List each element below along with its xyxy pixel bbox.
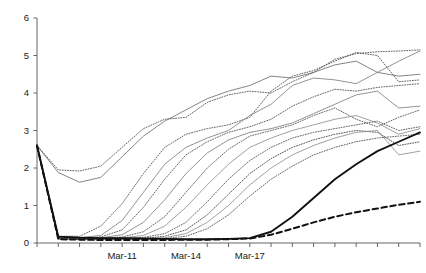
series-line <box>37 131 420 240</box>
series-line <box>37 108 420 239</box>
y-tick-label: 5 <box>13 51 29 61</box>
y-tick-label: 1 <box>13 201 29 211</box>
line-chart: 0123456 Mar-11Mar-14Mar-17 <box>0 0 426 273</box>
y-tick-label: 2 <box>13 163 29 173</box>
y-tick-label: 6 <box>13 13 29 23</box>
series-line <box>37 134 420 239</box>
series-line <box>37 131 420 240</box>
y-tick-label: 4 <box>13 88 29 98</box>
series-line <box>37 116 420 239</box>
x-tick-label: Mar-17 <box>220 251 280 261</box>
data-series-group <box>37 50 420 240</box>
series-line <box>37 51 420 237</box>
y-axis <box>34 18 38 243</box>
x-tick-label: Mar-14 <box>156 251 216 261</box>
series-line <box>37 121 420 239</box>
y-tick-label: 0 <box>13 238 29 248</box>
y-tick-label: 3 <box>13 126 29 136</box>
x-tick-label: Mar-11 <box>92 251 152 261</box>
chart-plot-area <box>0 0 426 273</box>
series-line <box>37 50 420 171</box>
x-axis <box>37 243 420 247</box>
series-line <box>37 132 420 239</box>
